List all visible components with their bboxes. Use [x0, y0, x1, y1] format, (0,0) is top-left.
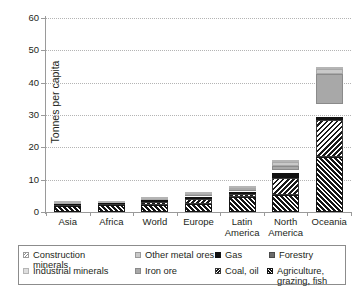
bar-segment-coal	[229, 194, 256, 198]
legend-label: Other metal ores	[145, 250, 214, 260]
bar-segment-forestry	[316, 104, 343, 117]
y-axis-line	[45, 16, 46, 214]
legend-label: Iron ore	[145, 266, 177, 276]
legend-item-industrial[interactable]: Industrial minerals	[23, 266, 108, 276]
x-tick-label-line1: North	[274, 216, 297, 227]
legend: Construction mineralsOther metal oresGas…	[18, 245, 346, 285]
bar-oceania	[316, 36, 343, 212]
legend-swatch-agri-icon	[267, 268, 273, 274]
x-tick-label-line1: Latin	[232, 216, 253, 227]
x-tick-mark	[307, 212, 308, 216]
x-tick-mark	[46, 212, 47, 216]
bar-segment-agri	[316, 157, 343, 212]
x-tick-label-line1: Asia	[59, 216, 77, 227]
legend-row-2: Industrial mineralsIron oreCoal, oilAgri…	[19, 266, 345, 284]
y-tick-label: 30	[17, 110, 39, 120]
bar-segment-construction	[229, 178, 256, 188]
bar-asia	[54, 200, 81, 212]
x-tick-mark	[177, 212, 178, 216]
bar-segment-gas	[272, 173, 299, 178]
bar-segment-construction	[272, 117, 299, 161]
bar-segment-agri	[185, 204, 212, 212]
bar-segment-othermetal	[316, 69, 343, 74]
x-tick-label: Asia	[46, 217, 90, 228]
bar-segment-coal	[185, 199, 212, 204]
x-tick-mark	[90, 212, 91, 216]
gridline	[46, 18, 351, 19]
x-tick-label: Europe	[177, 217, 221, 228]
x-tick-label: Oceania	[307, 217, 351, 228]
gridline	[46, 50, 351, 51]
legend-label: Forestry	[279, 250, 313, 260]
gridline	[46, 180, 351, 181]
bar-segment-agri	[98, 205, 125, 212]
legend-swatch-iron-icon	[135, 268, 141, 274]
bar-segment-forestry	[272, 170, 299, 173]
bar-segment-iron	[272, 166, 299, 170]
bar-segment-iron	[316, 74, 343, 105]
legend-swatch-gas-icon	[215, 252, 221, 258]
bar-segment-gas	[316, 117, 343, 120]
bar-segment-construction	[316, 36, 343, 67]
legend-label: Industrial minerals	[33, 266, 108, 276]
legend-item-othermetal[interactable]: Other metal ores	[135, 250, 214, 260]
gridline	[46, 83, 351, 84]
y-tick-label: 10	[17, 175, 39, 185]
gridline	[46, 115, 351, 116]
x-tick-label-line1: Oceania	[312, 216, 347, 227]
legend-swatch-othermetal-icon	[135, 252, 141, 258]
x-tick-label-line1: World	[143, 216, 168, 227]
x-tick-label-line1: Africa	[99, 216, 123, 227]
x-tick-label: World	[133, 217, 177, 228]
x-tick-label: NorthAmerica	[264, 217, 308, 238]
legend-item-iron[interactable]: Iron ore	[135, 266, 177, 276]
bar-segment-coal	[141, 202, 168, 205]
y-tick-mark	[41, 50, 45, 51]
x-tick-mark	[133, 212, 134, 216]
x-tick-mark	[351, 212, 352, 216]
bar-segment-coal	[316, 120, 343, 157]
legend-swatch-constr-icon	[23, 252, 29, 258]
bar-segment-agri	[229, 197, 256, 212]
y-tick-mark	[41, 147, 45, 148]
legend-item-coal[interactable]: Coal, oil	[215, 266, 259, 276]
bar-africa	[98, 198, 125, 212]
y-tick-mark	[41, 180, 45, 181]
bar-segment-industrial	[316, 67, 343, 69]
legend-label: Gas	[225, 250, 242, 260]
legend-label: Agriculture, grazing, fish	[277, 266, 345, 286]
bar-world	[141, 192, 168, 212]
bar-segment-construction	[98, 198, 125, 202]
legend-label: Coal, oil	[225, 266, 259, 276]
x-tick-label: LatinAmerica	[220, 217, 264, 238]
legend-item-gas[interactable]: Gas	[215, 250, 242, 260]
bar-latin-america	[229, 178, 256, 212]
bar-europe	[185, 184, 212, 212]
x-tick-mark	[220, 212, 221, 216]
gridline	[46, 147, 351, 148]
y-tick-label: 40	[17, 78, 39, 88]
y-tick-label: 0	[17, 207, 39, 217]
y-tick-label: 50	[17, 45, 39, 55]
bar-segment-construction	[185, 184, 212, 193]
y-tick-mark	[41, 18, 45, 19]
legend-item-forest[interactable]: Forestry	[269, 250, 313, 260]
legend-swatch-industrial-icon	[23, 268, 29, 274]
bar-segment-othermetal	[272, 162, 299, 167]
y-tick-mark	[41, 212, 45, 213]
x-axis-line	[45, 212, 352, 213]
y-tick-mark	[41, 83, 45, 84]
y-tick-mark	[41, 115, 45, 116]
bar-segment-construction	[141, 192, 168, 199]
bar-segment-construction	[54, 200, 81, 203]
x-tick-label: Africa	[90, 217, 134, 228]
bar-segment-forestry	[229, 191, 256, 192]
bar-segment-forestry	[185, 196, 212, 198]
plot-area: Tonnes per capita	[46, 18, 351, 212]
x-tick-label-line2: America	[225, 227, 260, 238]
legend-item-agri[interactable]: Agriculture, grazing, fish	[267, 266, 345, 286]
legend-swatch-forest-icon	[269, 252, 275, 258]
x-tick-mark	[264, 212, 265, 216]
y-tick-label: 60	[17, 13, 39, 23]
figure-stacked-bar-chart: Tonnes per capita 0102030405060 AsiaAfri…	[0, 0, 364, 300]
